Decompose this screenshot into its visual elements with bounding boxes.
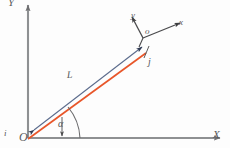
global-y-axis-label: Y (8, 0, 14, 8)
beam-element-member (28, 53, 146, 139)
angle-alpha-arc (68, 107, 80, 138)
member-length-label: L (67, 70, 73, 80)
global-x-axis-label: X (213, 129, 220, 140)
local-origin-connector (139, 38, 143, 47)
beam-element-diagram: Y X O i j o x y L α (0, 0, 230, 148)
local-origin-label: o (145, 27, 150, 36)
local-x-axis-label: x (179, 18, 183, 27)
local-coordinate-system (132, 17, 180, 47)
local-y-axis-label: y (131, 11, 135, 20)
member-angle-label: α (58, 119, 63, 129)
global-origin-label: O (19, 131, 28, 143)
node-j-label: j (148, 57, 151, 67)
length-dimension-line (34, 47, 142, 130)
node-i-label: i (4, 129, 7, 138)
local-y-axis (132, 17, 143, 38)
diagram-canvas (0, 0, 230, 148)
